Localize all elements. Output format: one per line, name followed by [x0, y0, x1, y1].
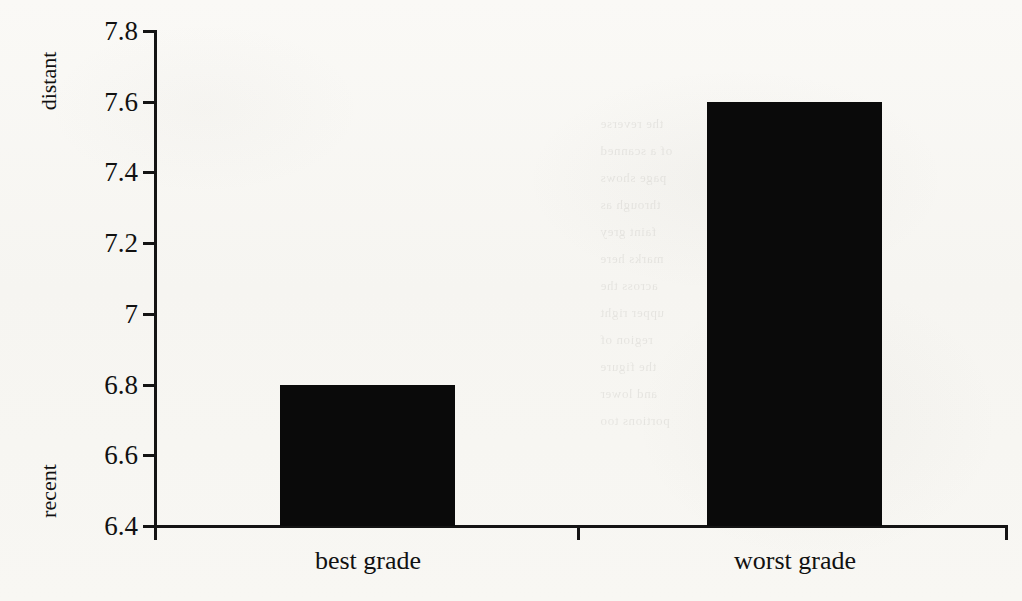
y-axis-tick	[143, 30, 155, 33]
y-axis-tick-label: 7.6	[76, 88, 138, 115]
x-axis-category-label: best grade	[218, 548, 518, 574]
x-axis-category-label: worst grade	[645, 548, 945, 574]
y-axis-low-label: recent	[38, 436, 60, 546]
x-axis-tick-middle	[577, 527, 580, 540]
y-axis-tick-label: 6.8	[76, 371, 138, 398]
y-axis-tick-label: 6.6	[76, 442, 138, 469]
y-axis-tick	[143, 384, 155, 387]
y-axis-high-label: distant	[38, 26, 60, 136]
chart-figure: the reverse of a scanned page shows thro…	[0, 0, 1022, 601]
y-axis-tick-label: 7	[76, 300, 138, 327]
bar	[707, 102, 882, 526]
y-axis-tick-label: 7.4	[76, 159, 138, 186]
y-axis-tick	[143, 454, 155, 457]
y-axis-tick-label: 7.8	[76, 18, 138, 45]
x-axis-tick-left	[154, 527, 157, 540]
bar	[280, 385, 455, 526]
y-axis-tick	[143, 242, 155, 245]
y-axis-tick	[143, 171, 155, 174]
y-axis-tick	[143, 101, 155, 104]
y-axis-tick	[143, 313, 155, 316]
y-axis-tick-label: 6.4	[76, 513, 138, 540]
y-axis-tick-label: 7.2	[76, 230, 138, 257]
x-axis-tick-right	[1005, 527, 1008, 540]
